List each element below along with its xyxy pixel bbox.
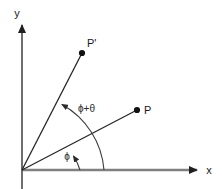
- angle-label-phi: ϕ: [64, 151, 70, 162]
- diagram-canvas: x y P' P ϕ ϕ+θ: [0, 0, 222, 189]
- ray-op-line: [22, 110, 137, 170]
- x-axis-label: x: [206, 164, 212, 176]
- y-axis-label: y: [14, 7, 20, 19]
- angle-label-phi-plus-theta: ϕ+θ: [78, 103, 95, 114]
- point-p-prime-dot: [79, 50, 85, 56]
- point-p-dot: [134, 107, 140, 113]
- geometry-diagram: x y P' P ϕ ϕ+θ: [0, 0, 222, 189]
- x-axis: x: [22, 164, 212, 176]
- point-p-prime-label: P': [87, 37, 96, 49]
- point-p-label: P: [144, 104, 151, 116]
- angle-arc-phi: ϕ: [64, 151, 80, 170]
- angle-arc-phi-path: [74, 156, 81, 170]
- y-axis: y: [14, 7, 22, 189]
